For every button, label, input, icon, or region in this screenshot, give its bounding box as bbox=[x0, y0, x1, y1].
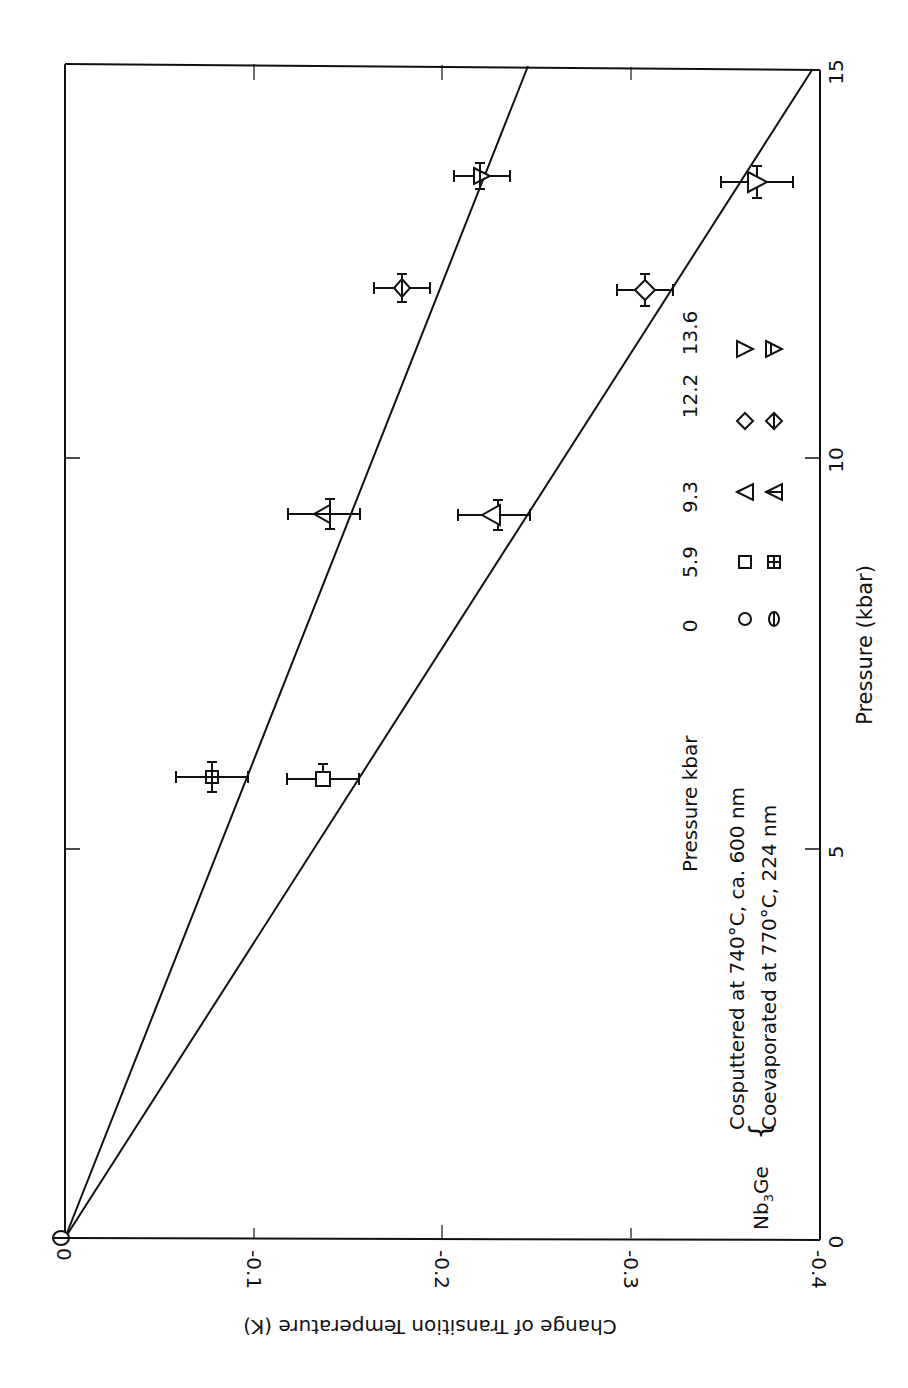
temperature-axis-line bbox=[65, 1238, 820, 1240]
data-point bbox=[176, 762, 248, 792]
triangle-right-hatched-icon bbox=[766, 341, 782, 357]
triangle-left-icon bbox=[737, 484, 753, 500]
y-axis-title: Change of Transition Temperature (K) bbox=[243, 1315, 616, 1339]
legend-row-cosputtered: Cosputtered at 740°C, ca. 600 nm bbox=[725, 787, 749, 1130]
x-axis-title: Pressure (kbar) bbox=[853, 565, 877, 725]
pressure-tick-labels: 0 5 10 15 bbox=[824, 59, 848, 1248]
legend-p4: 13.6 bbox=[678, 311, 702, 356]
data-point bbox=[287, 764, 359, 786]
temperature-tick-labels: 0 -0.1 -0.2 -0.3 -0.4 bbox=[52, 1248, 831, 1289]
pressure-ticks bbox=[65, 458, 820, 849]
legend-p2: 9.3 bbox=[678, 481, 702, 513]
xtick-10: 10 bbox=[824, 447, 848, 472]
diamond-icon bbox=[737, 413, 753, 429]
origin-marker bbox=[53, 1231, 69, 1245]
legend-material: Nb3Ge bbox=[749, 1166, 776, 1230]
ytick-0.3: -0.3 bbox=[619, 1250, 643, 1289]
ytick-0.4: -0.4 bbox=[807, 1250, 831, 1289]
triangle-right-icon bbox=[737, 341, 753, 357]
data-point bbox=[458, 500, 530, 530]
data-point bbox=[288, 499, 360, 529]
series-cosputtered bbox=[287, 166, 793, 786]
temperature-ticks bbox=[254, 64, 631, 1238]
data-point bbox=[721, 166, 793, 198]
series-coevaporated bbox=[176, 163, 510, 792]
xtick-15: 15 bbox=[824, 59, 848, 84]
legend-p1: 5.9 bbox=[678, 546, 702, 578]
legend-p3: 12.2 bbox=[678, 374, 702, 419]
data-point bbox=[374, 274, 430, 302]
legend-hatched-markers bbox=[766, 341, 782, 626]
fit-line-cosputtered bbox=[65, 70, 812, 1238]
ytick-0.1: -0.1 bbox=[242, 1250, 266, 1289]
ytick-0.2: -0.2 bbox=[430, 1250, 454, 1289]
xtick-5: 5 bbox=[824, 846, 848, 859]
legend-row-coevaporated: Coevaporated at 770°C, 224 nm bbox=[757, 805, 781, 1130]
legend: Nb3Ge { Cosputtered at 740°C, ca. 600 nm… bbox=[678, 311, 782, 1230]
circle-icon bbox=[739, 613, 751, 625]
legend-p0: 0 bbox=[678, 620, 702, 633]
legend-open-markers bbox=[737, 341, 753, 625]
ytick-0: 0 bbox=[52, 1248, 76, 1261]
plot-frame bbox=[65, 64, 820, 1240]
fit-lines bbox=[65, 66, 812, 1238]
rotated-pressure-chart: 0 5 10 15 Pressure (kbar) 0 -0.1 -0.2 -0… bbox=[0, 0, 908, 1388]
fit-line-coevaporated bbox=[65, 66, 528, 1238]
square-icon bbox=[739, 556, 751, 568]
legend-header: Pressure kbar bbox=[678, 735, 702, 872]
xtick-0: 0 bbox=[824, 1236, 848, 1249]
